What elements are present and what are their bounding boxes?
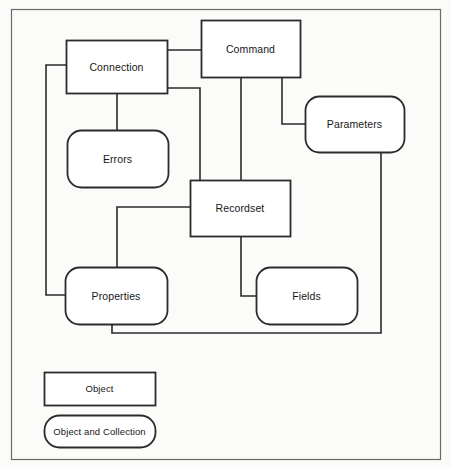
diagram-canvas: ConnectionCommandParametersErrorsRecords… (0, 0, 451, 469)
legend-shape-layer (45, 373, 156, 448)
legend-shape-legend-object (45, 373, 156, 406)
connector-recordset-properties (117, 207, 190, 267)
connector-connection-properties (46, 65, 66, 295)
node-connection[interactable] (66, 40, 167, 93)
legend-shape-legend-collection (45, 416, 156, 448)
node-errors[interactable] (67, 130, 168, 187)
node-fields[interactable] (256, 267, 357, 324)
node-parameters[interactable] (305, 96, 404, 152)
connector-recordset-fields (241, 236, 256, 296)
connector-command-parameters (282, 77, 305, 124)
node-command[interactable] (201, 20, 300, 77)
node-recordset[interactable] (190, 180, 290, 236)
node-properties[interactable] (65, 267, 167, 324)
